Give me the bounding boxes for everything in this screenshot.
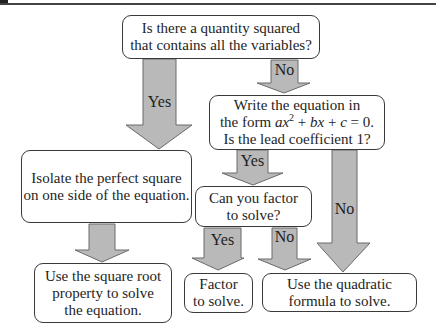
edge-label-yes-q2: Yes (236, 152, 269, 170)
equation-b-term: bx (310, 114, 324, 130)
node-text: Write the equation in (220, 97, 374, 114)
node-text: to solve. (193, 293, 244, 310)
node-factor-to-solve: Factor to solve. (184, 273, 253, 313)
node-text-equation: the form ax2 + bx + c = 0. (220, 114, 374, 131)
equation-suffix: = 0. (347, 114, 374, 130)
node-square-root-property: Use the square root property to solve th… (34, 263, 172, 323)
edge-label-yes-q3: Yes (204, 231, 241, 249)
node-quadratic-formula: Use the quadratic formula to solve. (262, 273, 417, 312)
edge-label-no-q3: No (272, 228, 297, 246)
node-text: property to solve (45, 285, 161, 302)
node-text: Use the quadratic (287, 276, 392, 293)
node-can-you-factor: Can you factor to solve? (195, 186, 312, 227)
node-text: that contains all the variables? (130, 37, 312, 54)
edge-label-no-q2: No (332, 200, 357, 218)
arrow-isolate-to-sqrt (75, 224, 129, 262)
node-text: formula to solve. (287, 293, 392, 310)
node-text: to solve? (209, 207, 298, 224)
equation-prefix: the form (220, 114, 275, 130)
node-text: Use the square root (45, 268, 161, 285)
edge-label-yes-q1: Yes (143, 93, 176, 111)
node-text: Isolate the perfect square (24, 170, 190, 187)
node-isolate-perfect-square: Isolate the perfect square on one side o… (21, 150, 192, 223)
equation-plus: + (324, 114, 340, 130)
edge-label-no-q1: No (271, 61, 298, 79)
node-write-standard-form: Write the equation in the form ax2 + bx … (209, 95, 385, 150)
equation-plus: + (294, 114, 310, 130)
equation-a-term: ax (275, 114, 289, 130)
node-text: the equation. (45, 302, 161, 319)
node-text: on one side of the equation. (24, 187, 190, 204)
node-text: Is the lead coefficient 1? (220, 131, 374, 148)
node-text: Can you factor (209, 190, 298, 207)
node-quantity-squared-question: Is there a quantity squared that contain… (122, 15, 320, 59)
node-text: Factor (193, 276, 244, 293)
equation-c-term: c (340, 114, 347, 130)
node-text: Is there a quantity squared (130, 20, 312, 37)
